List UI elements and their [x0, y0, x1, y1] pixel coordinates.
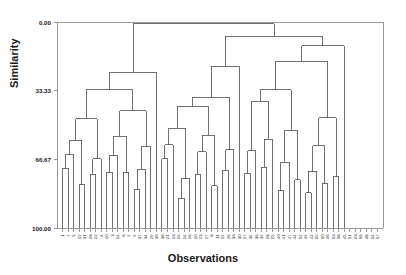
x-tick-label: 45 — [342, 234, 347, 239]
x-tick-label: 51 — [347, 234, 352, 239]
x-tick-label: 12 — [77, 234, 82, 239]
x-tick-label: 34 — [143, 234, 148, 239]
x-tick-label: 16 — [187, 234, 192, 239]
x-tick-label: 2 — [126, 234, 131, 237]
x-tick-label: 33 — [231, 234, 236, 239]
y-tick-label: 0.00 — [39, 19, 52, 26]
x-tick-label: 28 — [88, 234, 93, 239]
x-tick-label: 13 — [171, 234, 176, 239]
x-tick-label: 31 — [82, 234, 87, 239]
x-tick-label: 46 — [325, 234, 330, 239]
x-tick-label: 49 — [303, 234, 308, 239]
x-tick-label: 19 — [220, 234, 225, 239]
x-tick-label: 54 — [370, 234, 375, 239]
x-tick-label: 17 — [242, 234, 247, 239]
plot-frame — [57, 22, 383, 228]
dendrogram-figure: 0.0033.3366.67100.0017512312822420314629… — [0, 0, 406, 275]
x-tick-label: 26 — [226, 234, 231, 239]
x-tick-label: 14 — [115, 234, 120, 239]
x-tick-label: 56 — [358, 234, 363, 239]
x-tick-label: 52 — [298, 234, 303, 239]
x-tick-label: 3 — [110, 234, 115, 237]
x-tick-label: 58 — [336, 234, 341, 239]
x-tick-label: 47 — [287, 234, 292, 239]
y-tick-label: 33.33 — [36, 87, 52, 94]
x-tick-label: 30 — [237, 234, 242, 239]
x-tick-label: 23 — [198, 234, 203, 239]
x-tick-label: 1 — [60, 234, 65, 237]
x-tick-label: 15 — [176, 234, 181, 239]
x-tick-label: 21 — [165, 234, 170, 239]
x-tick-label: 43 — [353, 234, 358, 239]
x-tick-label: 53 — [331, 234, 336, 239]
x-tick-label: 57 — [375, 234, 380, 239]
x-tick-label: 39 — [248, 234, 253, 239]
x-tick-label: 37 — [137, 234, 142, 239]
dendrogram-plot: 0.0033.3366.67100.0017512312822420314629… — [0, 0, 406, 275]
x-tick-label: 44 — [292, 234, 297, 239]
x-tick-label: 25 — [270, 234, 275, 239]
x-tick-label: 42 — [309, 234, 314, 239]
y-axis: 0.0033.3366.67100.00 — [32, 19, 57, 232]
x-axis-label: Observations — [0, 252, 406, 264]
x-tick-label: 7 — [66, 234, 71, 237]
x-tick-label: 27 — [204, 234, 209, 239]
x-tick-label: 36 — [254, 234, 259, 239]
y-tick-label: 66.67 — [36, 156, 52, 163]
x-tick-label: 9 — [132, 234, 137, 237]
x-tick-label: 20 — [104, 234, 109, 239]
x-tick-label: 8 — [209, 234, 214, 237]
x-tick-label: 22 — [93, 234, 98, 239]
x-tick-label: 6 — [121, 234, 126, 237]
x-tick-label: 55 — [314, 234, 319, 239]
y-tick-label: 100.00 — [32, 225, 51, 232]
y-axis-label: Similarity — [8, 72, 20, 88]
x-tick-label: 41 — [281, 234, 286, 239]
x-axis: 1751231282242031462937342935382113152416… — [60, 228, 380, 239]
x-tick-label: 32 — [259, 234, 264, 239]
x-tick-label: 18 — [265, 234, 270, 239]
x-tick-label: 40 — [276, 234, 281, 239]
x-tick-label: 10 — [193, 234, 198, 239]
x-tick-label: 38 — [160, 234, 165, 239]
x-tick-label: 5 — [71, 234, 76, 237]
dendrogram-links — [63, 24, 345, 228]
x-tick-label: 24 — [182, 234, 187, 239]
x-tick-label: 50 — [320, 234, 325, 239]
x-tick-label: 48 — [364, 234, 369, 239]
x-tick-label: 4 — [99, 234, 104, 237]
x-tick-label: 29 — [149, 234, 154, 239]
x-tick-label: 35 — [154, 234, 159, 239]
x-tick-label: 11 — [215, 234, 220, 239]
